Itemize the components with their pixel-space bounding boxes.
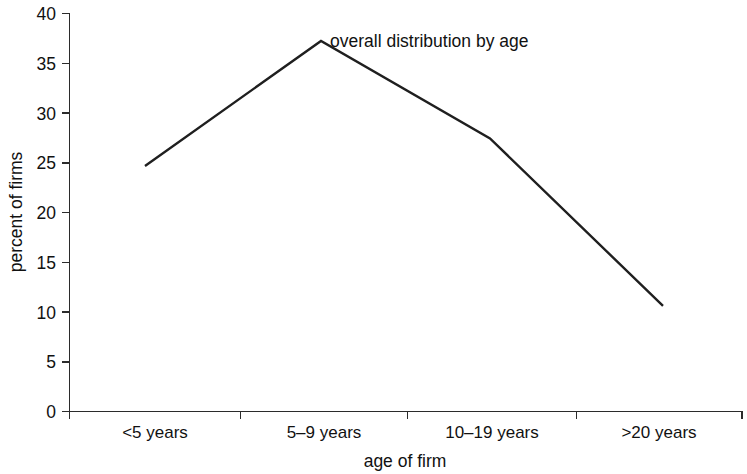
y-tick-label: 10 <box>37 303 57 323</box>
y-axis-title: percent of firms <box>6 151 26 272</box>
data-line-overall-distribution <box>145 41 663 306</box>
x-tick-label: 10–19 years <box>445 423 539 442</box>
x-tick-label: 5–9 years <box>287 423 362 442</box>
series-annotation-label: overall distribution by age <box>330 31 528 51</box>
x-tick-label: <5 years <box>122 423 188 442</box>
y-axis-ticks <box>62 14 69 412</box>
x-axis-title: age of firm <box>364 451 447 471</box>
y-tick-label: 40 <box>37 4 57 24</box>
x-axis-tick-labels: <5 years 5–9 years 10–19 years >20 years <box>122 423 696 442</box>
chart-canvas: 40 35 30 25 20 15 10 5 0 <5 years 5–9 ye… <box>0 0 747 474</box>
y-tick-label: 0 <box>46 402 56 422</box>
y-tick-label: 15 <box>37 253 56 273</box>
y-tick-label: 20 <box>37 203 57 223</box>
y-tick-label: 25 <box>37 153 56 173</box>
chart-figure: 40 35 30 25 20 15 10 5 0 <5 years 5–9 ye… <box>0 0 747 474</box>
x-tick-label: >20 years <box>621 423 696 442</box>
y-tick-label: 35 <box>37 54 56 74</box>
y-axis-tick-labels: 40 35 30 25 20 15 10 5 0 <box>37 4 57 422</box>
y-tick-label: 30 <box>37 104 57 124</box>
y-tick-label: 5 <box>46 352 56 372</box>
